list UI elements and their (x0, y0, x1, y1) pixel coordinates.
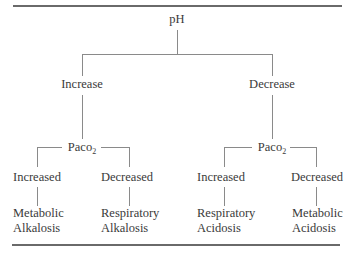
drop-metabolic-alkalosis (37, 187, 38, 206)
decrease-label: Decrease (249, 77, 295, 91)
paco-text: Paco (68, 140, 92, 154)
result-line-2: Acidosis (197, 221, 255, 236)
result-line-1: Respiratory (101, 206, 159, 221)
left-to-paco-connector (82, 95, 83, 139)
bottom-rule (12, 244, 340, 246)
paco-subscript: 2 (282, 147, 286, 156)
right-paco-right-arm (290, 147, 317, 148)
left-paco2-node: Paco2 (68, 140, 96, 154)
right-paco-left-arm (224, 147, 252, 148)
drop-respiratory-acidosis (224, 187, 225, 206)
left-decreased-drop (129, 147, 130, 167)
left-branch-drop (82, 54, 83, 76)
drop-respiratory-alkalosis (129, 187, 130, 206)
left-paco-left-arm (37, 147, 62, 148)
right-decreased-drop (316, 147, 317, 167)
paco-text: Paco (258, 140, 282, 154)
right-branch-drop (272, 54, 273, 76)
left-increased-label: Increased (13, 170, 61, 184)
right-paco2-node: Paco2 (258, 140, 286, 154)
root-branch-line (82, 54, 273, 55)
result-respiratory-acidosis: Respiratory Acidosis (197, 206, 255, 236)
left-decreased-label: Decreased (101, 170, 153, 184)
result-line-2: Alkalosis (13, 221, 64, 236)
root-connector (177, 30, 178, 55)
result-line-2: Acidosis (292, 221, 343, 236)
result-line-1: Metabolic (13, 206, 64, 221)
increase-label: Increase (61, 77, 103, 91)
right-decreased-label: Decreased (291, 170, 343, 184)
result-metabolic-acidosis: Metabolic Acidosis (292, 206, 343, 236)
right-increased-label: Increased (197, 170, 245, 184)
paco-subscript: 2 (92, 147, 96, 156)
right-to-paco-connector (272, 95, 273, 139)
result-line-1: Respiratory (197, 206, 255, 221)
result-line-2: Alkalosis (101, 221, 159, 236)
drop-metabolic-acidosis (316, 187, 317, 206)
right-increased-drop (224, 147, 225, 167)
left-increased-drop (37, 147, 38, 167)
left-paco-right-arm (101, 147, 129, 148)
result-respiratory-alkalosis: Respiratory Alkalosis (101, 206, 159, 236)
root-ph-label: pH (169, 12, 184, 26)
result-line-1: Metabolic (292, 206, 343, 221)
result-metabolic-alkalosis: Metabolic Alkalosis (13, 206, 64, 236)
top-rule (13, 5, 342, 7)
